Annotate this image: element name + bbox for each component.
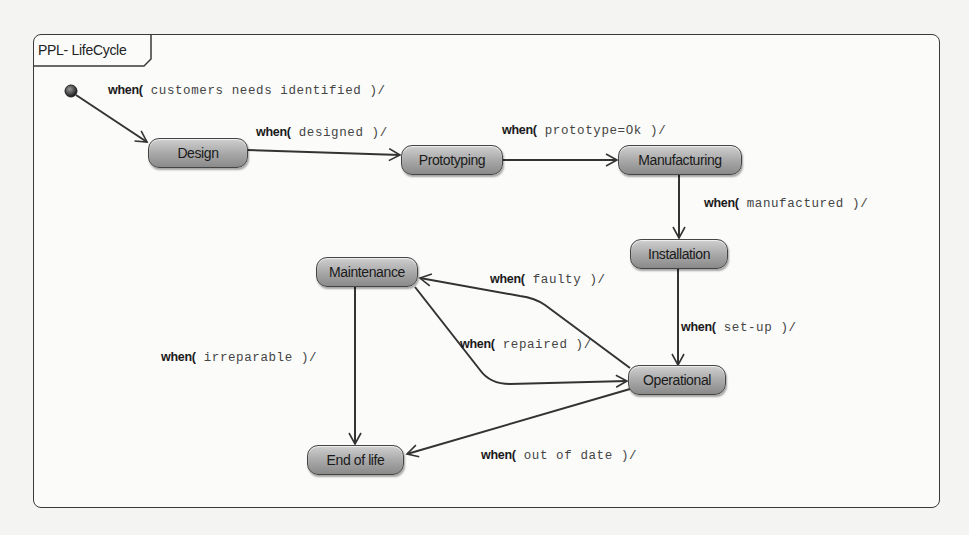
transition-label-out-of-date: when( out of date )/: [481, 448, 637, 463]
state-end-of-life[interactable]: End of life: [307, 445, 404, 475]
transition-label-manufactured: when( manufactured )/: [704, 196, 868, 211]
diagram-title: PPL- LifeCycle: [38, 42, 126, 58]
transition-label-designed: when( designed )/: [256, 125, 388, 140]
transition-label-irreparable: when( irreparable )/: [161, 350, 317, 365]
transition-design-prototyping: [247, 150, 400, 155]
state-installation[interactable]: Installation: [630, 239, 728, 269]
transition-label-faulty: when( faulty )/: [490, 272, 606, 287]
transition-maintenance-operational: [415, 287, 627, 384]
state-maintenance[interactable]: Maintenance: [316, 257, 418, 287]
state-prototyping[interactable]: Prototyping: [401, 145, 503, 175]
transition-label-customers-needs-identified: when( customers needs identified )/: [108, 83, 386, 98]
transition-initial-design: [76, 95, 147, 142]
transition-label-repaired: when( repaired )/: [460, 337, 592, 352]
transition-label-prototype-ok: when( prototype=Ok )/: [502, 123, 666, 138]
transition-operational-maintenance: [420, 278, 630, 368]
transition-operational-endoflife: [407, 389, 630, 454]
state-manufacturing[interactable]: Manufacturing: [618, 145, 742, 175]
state-diagram-canvas: PPL- LifeCycle Design Prototyping Manufa…: [0, 0, 969, 535]
state-design[interactable]: Design: [148, 138, 248, 168]
initial-state-dot: [65, 85, 77, 97]
state-operational[interactable]: Operational: [628, 365, 726, 395]
transition-label-set-up: when( set-up )/: [681, 320, 797, 335]
